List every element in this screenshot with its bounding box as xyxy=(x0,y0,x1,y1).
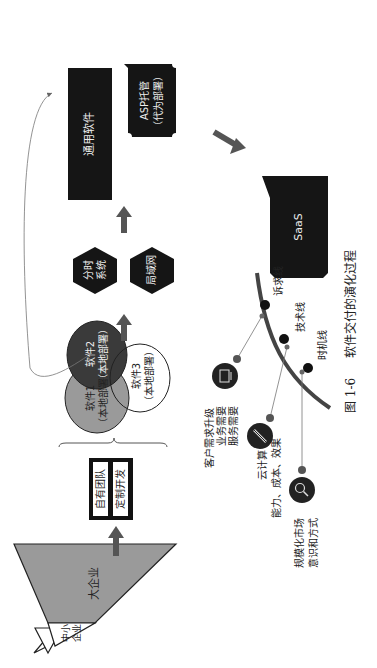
software-2-name: 软件2 xyxy=(84,341,97,367)
software-2-label: 软件2 （本地部署） xyxy=(82,324,112,384)
timesharing-line2: 系统 xyxy=(95,260,108,280)
software-3-label: 软件3 （本地部署） xyxy=(128,346,158,406)
factor-demand-line2: 业务需要 xyxy=(216,376,228,468)
factor-demand-label: 客户需求升级 业务需要 服务需要 xyxy=(204,376,240,468)
factor-cloud-label: 云计算 能力、成本、效果 xyxy=(256,438,284,518)
arc-node-demand xyxy=(260,300,270,310)
timesharing-line1: 分时 xyxy=(82,260,95,280)
general-software-label: 通用软件 xyxy=(68,68,112,200)
saas-label: SaaS xyxy=(270,176,328,278)
custom-dev-label: 定制开发 xyxy=(113,462,128,516)
factor-cloud-line2: 能力、成本、效果 xyxy=(270,438,284,518)
figure-caption: 图 1-6 软件交付的演化过程 xyxy=(344,250,358,413)
figure-title: 软件交付的演化过程 xyxy=(344,250,358,358)
sme-label-line2: 企业 xyxy=(72,624,83,642)
timing-line-label: 时机线 xyxy=(316,330,330,360)
software-1-name: 软件1 xyxy=(84,385,97,411)
factor-market-line2: 意识和方式 xyxy=(307,498,321,568)
sme-label-line1: 中小 xyxy=(61,624,72,642)
arc-node-tech xyxy=(279,334,289,344)
demand-line-label: 诉求线 xyxy=(272,266,286,296)
software-3-name: 软件3 xyxy=(130,363,143,389)
timesharing-label: 分时 系统 xyxy=(80,250,110,290)
asp-label: ASP托管 （代为部署） xyxy=(128,64,176,137)
large-enterprise-label: 大企业 xyxy=(85,558,105,608)
own-team-label: 自有团队 xyxy=(93,462,108,516)
factor-demand-line1: 客户需求升级 xyxy=(204,376,216,468)
arc-node-timing xyxy=(303,363,313,373)
factor-cloud-line1: 云计算 xyxy=(256,438,270,518)
factor-demand-line3: 服务需要 xyxy=(228,376,240,468)
asp-line1: ASP托管 xyxy=(138,81,152,120)
sme-label: 中小 企业 xyxy=(57,622,87,644)
tech-line-label: 技术线 xyxy=(294,302,308,332)
software-3-deploy: （本地部署） xyxy=(143,346,156,406)
brace xyxy=(59,438,167,447)
figure-number: 图 1-6 xyxy=(344,378,358,413)
arrow-diagonal xyxy=(214,132,246,154)
factor-market-label: 规模化市场 意识和方式 xyxy=(293,498,321,568)
arrow-up-3 xyxy=(116,206,132,233)
lan-label: 局域网 xyxy=(142,250,162,290)
asp-line2: （代为部署） xyxy=(152,71,166,131)
factor-market-line1: 规模化市场 xyxy=(293,498,307,568)
software-delivery-evolution-diagram: 中小 企业 大企业 自有团队 定制开发 软件1 （本地部署） 软件2 （本地部署… xyxy=(0,0,377,668)
software-2-deploy: （本地部署） xyxy=(97,324,110,384)
